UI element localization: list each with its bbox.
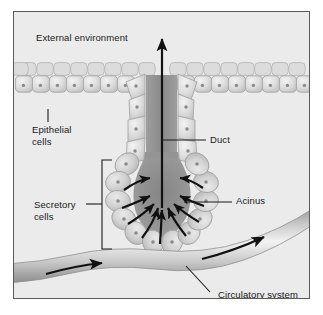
figure-page: External environment Epithelial cells Du… [0, 0, 323, 315]
label-circulatory-system: Circulatory system [218, 289, 298, 299]
duct-cells-right [178, 74, 197, 164]
label-secretory-cells: Secretory cells [34, 199, 76, 222]
label-duct: Duct [210, 134, 230, 146]
label-acinus: Acinus [236, 195, 265, 207]
duct-cells-left [126, 74, 145, 164]
epithelium-back-row [14, 63, 305, 76]
label-epithelial-cells: Epithelial cells [32, 124, 72, 147]
diagram-illustration [14, 12, 309, 298]
figure-frame: External environment Epithelial cells Du… [13, 11, 310, 299]
label-external-environment: External environment [36, 32, 128, 44]
